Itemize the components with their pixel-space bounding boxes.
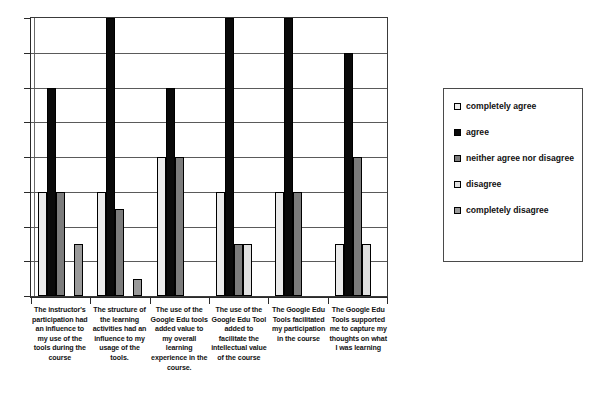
- bar: [293, 192, 302, 296]
- legend-item-list: completely agreeagreeneither agree nor d…: [454, 101, 582, 216]
- chart-legend: completely agreeagreeneither agree nor d…: [443, 88, 583, 262]
- x-axis-tick: [31, 297, 32, 304]
- bar: [362, 244, 371, 296]
- bar: [284, 18, 293, 296]
- light-gray-swatch: [454, 181, 461, 188]
- black-swatch: [454, 129, 461, 136]
- bar-group: [268, 18, 327, 296]
- dark-gray-swatch: [454, 155, 461, 162]
- y-axis-tick: [24, 18, 31, 19]
- x-axis-tick: [387, 297, 388, 304]
- plot-area: [30, 17, 388, 297]
- legend-item-label: disagree: [466, 179, 501, 190]
- y-axis-tick: [24, 261, 31, 262]
- legend-item[interactable]: completely disagree: [454, 205, 582, 216]
- bar: [157, 157, 166, 296]
- bar: [133, 279, 142, 296]
- y-axis-tick: [24, 157, 31, 158]
- chart-container: The instructor's participation had an in…: [0, 0, 603, 416]
- x-axis-tick: [209, 297, 210, 304]
- bar: [47, 88, 56, 297]
- bar: [38, 192, 47, 296]
- bar: [275, 192, 284, 296]
- bar: [115, 209, 124, 296]
- bar-group: [209, 18, 268, 296]
- bar: [225, 18, 234, 296]
- y-axis-tick: [24, 122, 31, 123]
- bar: [166, 88, 175, 297]
- legend-item[interactable]: agree: [454, 127, 582, 138]
- x-axis-tick: [90, 297, 91, 304]
- bar: [175, 157, 184, 296]
- category-labels: The instructor's participation had an in…: [30, 306, 388, 373]
- x-axis-tick: [150, 297, 151, 304]
- medium-gray-swatch: [454, 207, 461, 214]
- x-axis-ticks: [30, 297, 388, 304]
- bar: [74, 244, 83, 296]
- legend-item-label: completely disagree: [466, 205, 549, 216]
- category-label: The use of the Google Edu Tool added to …: [209, 306, 269, 373]
- legend-item-label: neither agree nor disagree: [466, 153, 574, 164]
- y-axis-tick: [24, 192, 31, 193]
- bar: [243, 244, 252, 296]
- legend-item-label: completely agree: [466, 101, 536, 112]
- bar-group: [31, 18, 90, 296]
- x-axis-tick: [268, 297, 269, 304]
- bar: [344, 53, 353, 296]
- white-swatch: [454, 103, 461, 110]
- bar: [97, 192, 106, 296]
- category-label: The instructor's participation had an in…: [30, 306, 90, 373]
- bar: [216, 192, 225, 296]
- category-label: The Google Edu Tools facilitated my part…: [269, 306, 329, 373]
- y-axis-tick: [24, 227, 31, 228]
- y-axis-tick: [24, 88, 31, 89]
- bar: [106, 18, 115, 296]
- category-label: The Google Edu Tools supported me to cap…: [328, 306, 388, 373]
- bar: [335, 244, 344, 296]
- bar-group: [328, 18, 387, 296]
- legend-item-label: agree: [466, 127, 489, 138]
- legend-item[interactable]: disagree: [454, 179, 582, 190]
- category-label: The structure of the learning activities…: [90, 306, 150, 373]
- legend-item[interactable]: neither agree nor disagree: [454, 153, 582, 164]
- bar: [353, 157, 362, 296]
- category-label: The use of the Google Edu tools added va…: [149, 306, 209, 373]
- y-axis-tick: [24, 53, 31, 54]
- x-axis-tick: [328, 297, 329, 304]
- bar: [56, 192, 65, 296]
- bar-group: [90, 18, 149, 296]
- bar: [234, 244, 243, 296]
- bar-group: [150, 18, 209, 296]
- legend-item[interactable]: completely agree: [454, 101, 582, 112]
- bar-groups: [31, 18, 387, 296]
